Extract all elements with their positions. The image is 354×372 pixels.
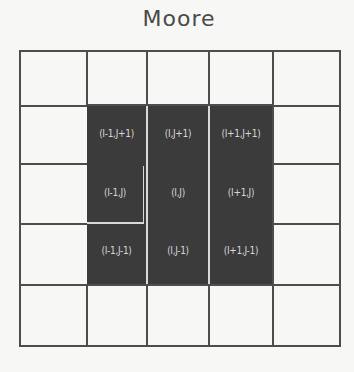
grid-line-h1-mid xyxy=(87,104,272,106)
grid-line-h0 xyxy=(19,50,341,52)
grid-line-v5 xyxy=(339,50,341,347)
grid-line-v4 xyxy=(272,50,274,347)
moore-neighborhood-diagram: Moore (I-1,J+1) (I,J+1) (I+1,J+1) (I-1,J… xyxy=(0,0,354,372)
grid-line-h1 xyxy=(19,105,87,107)
grid-line-v2-top xyxy=(146,50,148,106)
grid-line-v3-top xyxy=(208,50,210,106)
grid-line-v0 xyxy=(19,50,21,347)
cell-label-n: (I,J+1) xyxy=(148,128,208,139)
diagram-title: Moore xyxy=(2,6,354,31)
grid-line-h3-right xyxy=(272,223,341,225)
grid-line-h5 xyxy=(19,345,341,347)
grid-line-h2-left xyxy=(19,163,87,165)
cell-label-ne: (I+1,J+1) xyxy=(210,128,272,139)
cell-label-sw: (I-1,J-1) xyxy=(87,245,146,256)
grid-line-v3-bottom xyxy=(208,284,210,347)
grid-line-h2-right xyxy=(272,163,341,165)
grid-line-h3-left xyxy=(19,223,87,225)
grid-line-h4 xyxy=(19,284,341,286)
grid-line-h1-right xyxy=(272,105,341,107)
grid-line-v1-top xyxy=(86,50,88,106)
cell-label-se: (I+1,J-1) xyxy=(210,245,272,256)
grid-line-v2-bottom xyxy=(146,284,148,347)
cell-label-s: (I,J-1) xyxy=(148,245,208,256)
cell-label-center: (I,J) xyxy=(148,187,208,198)
divider-vertical-inner xyxy=(143,166,144,224)
cell-label-w: (I-1,J) xyxy=(87,187,143,198)
divider-horizontal-inner xyxy=(87,222,144,224)
grid-line-v1-bottom xyxy=(86,284,88,347)
cell-label-e: (I+1,J) xyxy=(210,187,272,198)
cell-label-nw: (I-1,J+1) xyxy=(87,128,146,139)
